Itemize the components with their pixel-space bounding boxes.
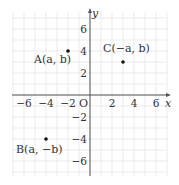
coordinate-plane: x y O −6−4−2246642−2−4−6 A(a, b)B(a, −b)… (0, 0, 179, 185)
y-tick-label: −2 (72, 111, 87, 123)
point-label: B(a, −b) (16, 143, 62, 156)
x-tick-label: 6 (153, 97, 160, 109)
y-tick-label: 6 (80, 23, 87, 35)
y-tick-label: −4 (72, 133, 88, 145)
x-axis-label: x (165, 97, 172, 110)
x-tick-label: −2 (60, 97, 75, 109)
point-c: C(−a, b) (103, 42, 150, 64)
origin-label: O (79, 97, 88, 110)
point-label: A(a, b) (33, 53, 71, 66)
point-dot-icon (121, 60, 125, 64)
x-tick-label: 2 (109, 97, 116, 109)
point-b: B(a, −b) (16, 137, 62, 156)
y-tick-label: −6 (72, 155, 88, 167)
y-axis-label: y (91, 7, 99, 20)
y-tick-label: 4 (80, 45, 87, 57)
point-label: C(−a, b) (103, 42, 150, 55)
point-dot-icon (44, 137, 48, 141)
x-tick-label: −6 (16, 97, 32, 109)
x-tick-label: −4 (38, 97, 54, 109)
point-a: A(a, b) (33, 49, 71, 66)
y-tick-label: 2 (80, 67, 87, 79)
x-tick-label: 4 (131, 97, 138, 109)
